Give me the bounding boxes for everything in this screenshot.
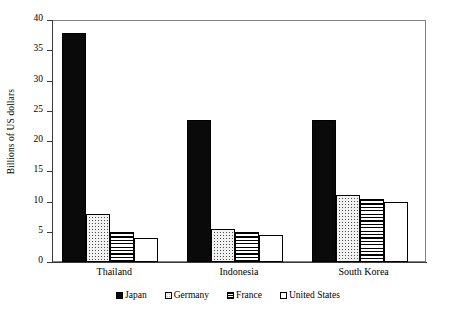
legend-label: United States [289, 290, 340, 300]
legend-item-unitedstates[interactable]: United States [280, 290, 340, 300]
chart-legend: JapanGermanyFranceUnited States [0, 290, 456, 300]
x-axis-label-indonesia: Indonesia [177, 266, 302, 277]
y-tick-mark [47, 232, 52, 233]
bar-chart: Billions of US dollars 0510152025303540 … [0, 0, 456, 312]
bar-indonesia-japan [187, 120, 211, 262]
y-tick-label: 20 [34, 134, 44, 144]
y-tick-mark [47, 171, 52, 172]
y-tick-label: 5 [38, 225, 43, 235]
y-tick-label: 15 [34, 164, 44, 174]
bar-thailand-united-states [134, 238, 158, 262]
bar-indonesia-united-states [259, 235, 283, 262]
bar-south-korea-germany [336, 195, 360, 262]
y-axis-title-label: Billions of US dollars [6, 89, 16, 174]
y-tick-label: 25 [34, 104, 44, 114]
y-tick-mark [47, 202, 52, 203]
x-axis-label-thailand: Thailand [52, 266, 177, 277]
y-tick-mark [47, 50, 52, 51]
y-tick-mark [47, 111, 52, 112]
bar-indonesia-germany [211, 229, 235, 262]
legend-swatch-germany-icon [165, 292, 172, 299]
legend-item-france[interactable]: France [227, 290, 262, 300]
legend-label: Germany [174, 290, 209, 300]
y-tick-label: 40 [34, 13, 44, 23]
bar-thailand-germany [86, 214, 110, 262]
legend-label: Japan [125, 290, 147, 300]
bar-south-korea-japan [312, 120, 336, 262]
y-tick-label: 30 [34, 74, 44, 84]
bar-south-korea-united-states [384, 202, 408, 263]
y-tick-mark [47, 141, 52, 142]
bar-thailand-japan [62, 33, 86, 262]
legend-swatch-japan-icon [116, 292, 123, 299]
legend-item-germany[interactable]: Germany [165, 290, 209, 300]
x-axis-line [52, 262, 427, 263]
y-axis-line [52, 20, 53, 263]
y-tick-label: 0 [38, 255, 43, 265]
legend-label: France [236, 290, 262, 300]
legend-item-japan[interactable]: Japan [116, 290, 147, 300]
y-tick-label: 35 [34, 43, 44, 53]
x-axis-label-south-korea: South Korea [301, 266, 426, 277]
y-tick-label: 10 [34, 195, 44, 205]
y-tick-mark [47, 262, 52, 263]
y-axis-title: Billions of US dollars [0, 0, 22, 264]
y-tick-mark [47, 81, 52, 82]
y-tick-mark [47, 20, 52, 21]
bar-indonesia-france [235, 232, 259, 262]
legend-swatch-unitedstates-icon [280, 292, 287, 299]
bar-thailand-france [110, 232, 134, 262]
bar-south-korea-france [360, 199, 384, 262]
legend-swatch-france-icon [227, 292, 234, 299]
